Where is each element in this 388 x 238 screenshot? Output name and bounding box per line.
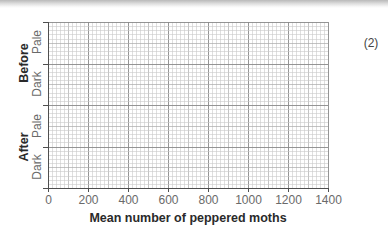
x-tick-label: 1000: [235, 193, 262, 207]
x-tick-label: 1400: [315, 193, 342, 207]
x-axis-title: Mean number of peppered moths: [89, 211, 286, 225]
marks-indicator: (2): [364, 36, 379, 50]
x-tick-label: 600: [158, 193, 178, 207]
x-tick-label: 200: [78, 193, 98, 207]
x-tick-label: 400: [118, 193, 138, 207]
y-group-label-before: Before: [17, 43, 31, 83]
chart-figure: 0200400600800100012001400 Mean number of…: [0, 0, 388, 238]
x-tick-label: 0: [45, 193, 52, 207]
y-category-label-after-pale: Pale: [30, 114, 44, 138]
y-group-label-after: After: [17, 132, 31, 161]
y-category-label-before-dark: Dark: [30, 70, 44, 96]
bar-chart-grid: 0200400600800100012001400 Mean number of…: [0, 0, 388, 238]
x-axis-ticks: 0200400600800100012001400: [45, 188, 342, 207]
x-tick-label: 1200: [275, 193, 302, 207]
graph-paper-grid: [48, 22, 329, 189]
x-tick-label: 800: [198, 193, 218, 207]
y-category-label-after-dark: Dark: [30, 153, 44, 179]
y-category-label-before-pale: Pale: [30, 30, 44, 54]
